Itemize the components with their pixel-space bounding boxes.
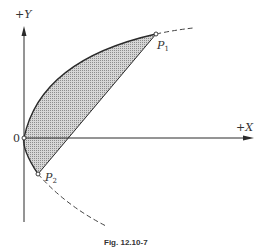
origin-label: 0 <box>13 132 20 145</box>
parabola-segment-diagram: +Y +X 0 P1 P2 Fig. 12.10-7 <box>0 0 268 249</box>
x-axis-arrow-icon <box>243 136 254 141</box>
figure-caption: Fig. 12.10-7 <box>104 238 148 247</box>
y-axis-label: +Y <box>15 8 33 21</box>
p1-label: P1 <box>156 39 169 53</box>
origin-point <box>22 136 26 140</box>
parabola-dashed-upper <box>156 28 193 34</box>
p2-label: P2 <box>44 171 57 185</box>
x-axis-label: +X <box>236 121 254 134</box>
point-p2 <box>36 172 40 176</box>
point-p1 <box>154 32 158 36</box>
shaded-region <box>23 34 156 174</box>
y-axis-arrow-icon <box>22 26 27 36</box>
